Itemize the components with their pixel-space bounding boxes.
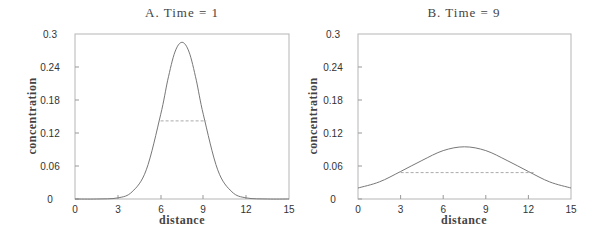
panel-a-ytick-label: 0.12 <box>40 128 60 139</box>
panel-a: A. Time = 1 0 0.06 0.12 0.18 0.24 0.3 0 … <box>25 5 295 227</box>
panel-b-title: B. Time = 9 <box>427 5 500 20</box>
panel-b-ytick-label: 0.3 <box>326 29 340 40</box>
panel-a-ytick-label: 0.18 <box>40 95 60 106</box>
panel-b-xlabel: distance <box>441 213 487 227</box>
panel-b-ytick-label: 0.06 <box>323 161 343 172</box>
panel-b-xtick-label: 3 <box>398 204 404 215</box>
panel-b-ytick-label: 0.12 <box>323 128 343 139</box>
panel-b: B. Time = 9 0 0.06 0.12 0.18 0.24 0.3 0 … <box>306 5 577 227</box>
panel-b-yticks: 0 0.06 0.12 0.18 0.24 0.3 <box>323 29 362 205</box>
panel-a-frame <box>75 34 289 199</box>
panel-a-ytick-label: 0.24 <box>40 62 60 73</box>
figure: A. Time = 1 0 0.06 0.12 0.18 0.24 0.3 0 … <box>0 0 601 235</box>
panel-a-xtick-label: 15 <box>283 204 295 215</box>
panel-a-xtick-label: 3 <box>115 204 121 215</box>
panel-b-xticks: 0 3 6 9 12 15 <box>355 195 577 215</box>
panel-b-xtick-label: 12 <box>523 204 535 215</box>
panel-b-frame <box>358 34 571 199</box>
panel-a-xlabel: distance <box>159 213 205 227</box>
panel-b-xtick-label: 15 <box>565 204 577 215</box>
panel-b-ytick-label: 0.24 <box>323 62 343 73</box>
panel-a-ytick-label: 0.06 <box>40 161 60 172</box>
panel-a-xticks: 0 3 6 9 12 15 <box>72 195 295 215</box>
panel-a-xtick-label: 12 <box>240 204 252 215</box>
panel-a-ylabel: concentration <box>25 77 39 154</box>
panel-b-xtick-label: 0 <box>355 204 361 215</box>
panel-a-title: A. Time = 1 <box>145 5 219 20</box>
panel-b-ylabel: concentration <box>306 77 320 154</box>
panel-b-curve <box>358 147 571 188</box>
panel-b-ytick-label: 0 <box>330 194 336 205</box>
panel-a-ytick-label: 0.3 <box>43 29 57 40</box>
panel-a-xtick-label: 0 <box>72 204 78 215</box>
panel-a-yticks: 0 0.06 0.12 0.18 0.24 0.3 <box>40 29 79 205</box>
panel-b-ytick-label: 0.18 <box>323 95 343 106</box>
panel-a-ytick-label: 0 <box>47 194 53 205</box>
